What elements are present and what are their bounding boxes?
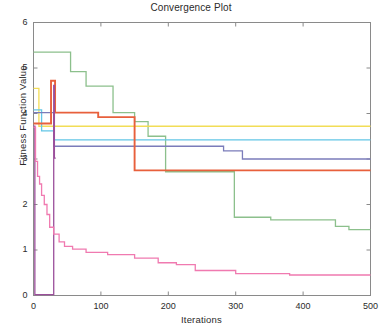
y-tick-label: 3 — [4, 153, 28, 163]
x-tick-label: 400 — [283, 301, 323, 311]
x-tick-label: 0 — [14, 301, 54, 311]
y-tick-label: 0 — [4, 290, 28, 300]
series-line-orange-red — [34, 81, 371, 171]
x-tick-label: 100 — [81, 301, 121, 311]
series-group — [34, 52, 371, 295]
x-tick-label: 300 — [216, 301, 256, 311]
series-line-cyan — [34, 110, 371, 140]
plot-canvas — [0, 0, 382, 331]
y-tick-label: 1 — [4, 244, 28, 254]
y-tick-label: 5 — [4, 62, 28, 72]
series-line-magenta-drop — [34, 85, 56, 294]
y-tick-label: 4 — [4, 108, 28, 118]
x-tick-label: 500 — [351, 301, 382, 311]
series-line-pink — [34, 127, 371, 275]
series-line-yellow — [34, 88, 371, 126]
y-tick-label: 6 — [4, 17, 28, 27]
x-tick-label: 200 — [148, 301, 188, 311]
series-line-slate-blue — [34, 113, 371, 159]
y-tick-label: 2 — [4, 199, 28, 209]
convergence-plot-figure: Convergence Plot Fitness Function Value … — [0, 0, 382, 331]
series-line-green — [34, 52, 371, 229]
